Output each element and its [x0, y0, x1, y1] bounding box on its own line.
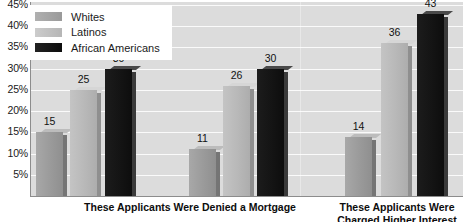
y-axis-tick-label: 15% — [0, 125, 28, 137]
bar-side-face — [408, 46, 412, 196]
bar-side-face — [63, 135, 67, 196]
bar-front-face — [223, 86, 250, 196]
bar-front-face — [105, 69, 132, 196]
bar-side-face — [97, 93, 101, 196]
y-axis: 45%40%35%30%25%20%15%10%5% — [0, 0, 31, 200]
bar-front-face — [381, 43, 408, 196]
y-axis-tick-label: 25% — [0, 83, 28, 95]
bar-front-face — [417, 14, 444, 197]
legend-swatch-icon-whites — [35, 12, 62, 21]
category-label-higher-interest: These Applicants Were Charged Higher Int… — [330, 201, 464, 222]
y-axis-tick-label: 30% — [0, 62, 28, 74]
bar-side-face — [132, 72, 136, 196]
bar-front-face — [70, 90, 97, 196]
legend: Whites Latinos African Americans — [28, 5, 172, 60]
bar-value-label: 26 — [219, 69, 254, 81]
category-label-higher-interest-line2: Charged Higher Interest — [330, 214, 464, 223]
bar-african-americans-30 — [257, 69, 284, 196]
legend-item-latinos: Latinos — [35, 25, 166, 41]
category-label-denied-mortgage-line1: These Applicants Were Denied a Mortgage — [45, 201, 335, 214]
legend-swatch-icon-african-americans — [35, 43, 62, 52]
bar-whites-15 — [36, 132, 63, 196]
y-axis-tick-label: 35% — [0, 40, 28, 52]
bar-value-label: 25 — [66, 73, 101, 85]
y-axis-tick-label: 10% — [0, 147, 28, 159]
bar-latinos-36 — [381, 43, 408, 196]
bar-african-americans-43 — [417, 14, 444, 197]
legend-label-african-americans: African Americans — [71, 42, 160, 54]
bar-value-label: 36 — [377, 26, 412, 38]
bar-african-americans-30 — [105, 69, 132, 196]
bar-front-face — [36, 132, 63, 196]
bar-value-label: 15 — [32, 115, 67, 127]
bar-side-face — [372, 140, 376, 196]
bar-front-face — [345, 137, 372, 196]
bar-whites-11 — [189, 149, 216, 196]
y-axis-tick-label: 20% — [0, 104, 28, 116]
category-label-higher-interest-line1: These Applicants Were — [330, 201, 464, 214]
bar-value-label: 43 — [413, 0, 448, 9]
bar-side-face — [216, 152, 220, 196]
legend-item-whites: Whites — [35, 9, 166, 25]
bar-side-face — [250, 89, 254, 196]
legend-label-latinos: Latinos — [71, 26, 106, 38]
y-axis-tick-label: 40% — [0, 19, 28, 31]
x-axis-line — [30, 196, 463, 197]
y-axis-tick-label: 5% — [0, 168, 28, 180]
category-label-denied-mortgage: These Applicants Were Denied a Mortgage — [45, 201, 335, 214]
bar-latinos-25 — [70, 90, 97, 196]
bar-side-face — [284, 72, 288, 196]
bar-chart: 45%40%35%30%25%20%15%10%5% 1525301126301… — [0, 0, 464, 222]
bar-front-face — [257, 69, 284, 196]
bar-whites-14 — [345, 137, 372, 196]
bar-front-face — [189, 149, 216, 196]
bar-latinos-26 — [223, 86, 250, 196]
legend-swatch-icon-latinos — [35, 28, 62, 37]
group-separator — [300, 2, 301, 196]
bar-value-label: 11 — [185, 132, 220, 144]
bar-side-face — [444, 17, 448, 197]
legend-label-whites: Whites — [71, 11, 105, 23]
bar-value-label: 30 — [253, 52, 288, 64]
legend-item-african-americans: African Americans — [35, 40, 166, 56]
bar-value-label: 14 — [341, 120, 376, 132]
y-axis-tick-label: 45% — [0, 0, 28, 10]
